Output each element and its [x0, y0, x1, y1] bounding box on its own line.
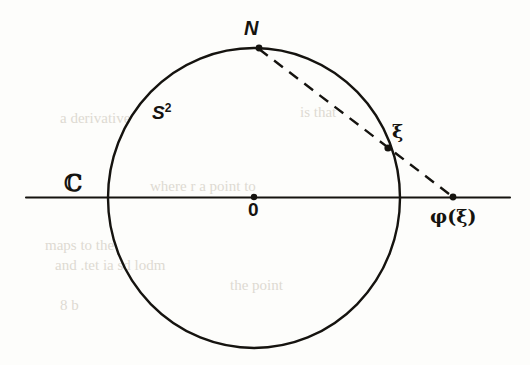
- point-xi: [384, 144, 391, 151]
- label-sphere-exponent: 2: [165, 101, 172, 115]
- label-origin: 0: [248, 200, 259, 219]
- point-phi-xi: [450, 194, 457, 201]
- point-north-pole: [256, 45, 263, 52]
- label-complex-plane: ℂ: [64, 171, 82, 194]
- label-projected-point: φ(ξ): [430, 207, 476, 226]
- label-north-pole: N: [244, 18, 259, 38]
- label-point-xi: ξ: [392, 122, 403, 141]
- stereographic-projection-figure: a derivative is that where r a point to …: [0, 0, 530, 365]
- projection-ray-dashed: [259, 49, 453, 197]
- label-sphere-base: S: [152, 102, 165, 123]
- label-sphere: S2: [152, 102, 171, 122]
